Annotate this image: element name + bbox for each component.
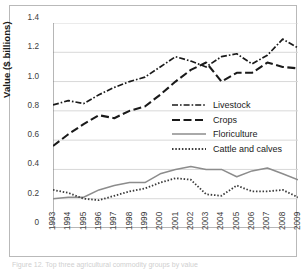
legend-label: Livestock xyxy=(213,100,251,110)
series-line-cattle-and-calves xyxy=(53,178,298,200)
legend-item-floriculture[interactable]: Floriculture xyxy=(172,127,282,142)
chart-frame: Value ($ billions) 00.20.40.60.81.01.21.… xyxy=(9,5,297,257)
y-tick-label: 1.0 xyxy=(13,72,39,81)
legend-item-crops[interactable]: Crops xyxy=(172,113,282,128)
legend-swatch-icon xyxy=(172,100,206,110)
chart-legend: LivestockCropsFloricultureCattle and cal… xyxy=(172,98,282,156)
series-line-livestock xyxy=(53,39,298,105)
legend-item-cattle-and-calves[interactable]: Cattle and calves xyxy=(172,142,282,157)
y-tick-label: 1.4 xyxy=(13,13,39,22)
legend-swatch-icon xyxy=(172,129,206,139)
legend-label: Crops xyxy=(213,115,237,125)
legend-swatch-icon xyxy=(172,144,206,154)
y-tick-label: 0.8 xyxy=(13,101,39,110)
chart-figure: Value ($ billions) 00.20.40.60.81.01.21.… xyxy=(0,0,308,269)
legend-label: Cattle and calves xyxy=(213,144,282,154)
series-line-floriculture xyxy=(53,167,298,199)
y-tick-label: 1.2 xyxy=(13,42,39,51)
figure-caption: Figure 12. Top three agricultural commod… xyxy=(12,261,302,269)
y-tick-label: 0.4 xyxy=(13,159,39,168)
legend-label: Floriculture xyxy=(213,129,258,139)
y-tick-label: 0.2 xyxy=(13,189,39,198)
y-axis-label: Value ($ billions) xyxy=(1,21,12,98)
y-tick-label: 0 xyxy=(13,218,39,227)
legend-swatch-icon xyxy=(172,115,206,125)
y-tick-label: 0.6 xyxy=(13,130,39,139)
legend-item-livestock[interactable]: Livestock xyxy=(172,98,282,113)
